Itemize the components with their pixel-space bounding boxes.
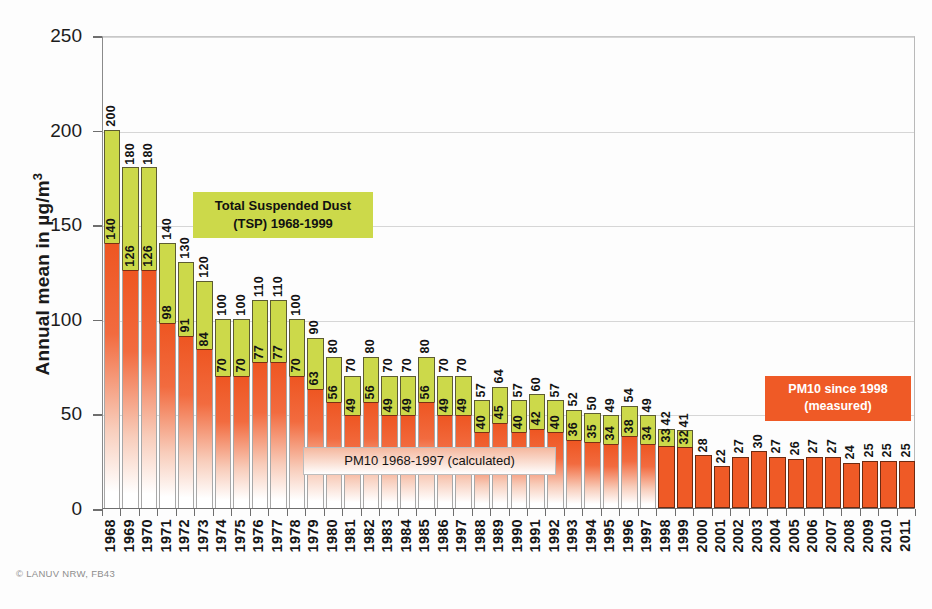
bar-pm10-measured[interactable] [825, 457, 841, 508]
bar-value-label-pm10: 34 [604, 426, 617, 441]
bar-slot: 6445 [491, 37, 509, 508]
x-tick-mark [176, 509, 177, 516]
x-tick-label-30: 1998 [658, 519, 673, 552]
bar-value-label-pm10: 40 [549, 415, 562, 430]
legend-tsp: Total Suspended Dust (TSP) 1968-1999 [193, 192, 373, 238]
bar-value-label-pm10: 32 [678, 430, 691, 445]
x-tick-label-6: 1974 [214, 519, 229, 552]
bar-value-label-pm10: 77 [253, 345, 266, 360]
bar-pm10-calculated[interactable] [233, 376, 249, 508]
x-tick-label-12: 1980 [325, 519, 340, 552]
y-tick-mark-0 [93, 509, 102, 511]
bar-pm10-calculated[interactable] [141, 270, 157, 508]
bar-pm10-calculated[interactable] [104, 243, 120, 508]
bar-pm10-measured[interactable] [899, 461, 915, 508]
bar-slot: 6042 [528, 37, 546, 508]
legend-tsp-line1: Total Suspended Dust [197, 197, 369, 215]
x-tick-label-9: 1977 [270, 519, 285, 552]
bar-pm10-measured[interactable] [806, 457, 822, 508]
bar-value-label-pm10: 25 [881, 443, 894, 458]
bar-pm10-measured[interactable] [769, 457, 785, 508]
x-tick-mark [545, 509, 546, 516]
y-tick-mark-150 [93, 225, 102, 227]
bar-pm10-calculated[interactable] [289, 376, 305, 508]
bar-slot: 8056 [362, 37, 380, 508]
bar-slot: 7049 [399, 37, 417, 508]
bar-slot: 10070 [214, 37, 232, 508]
x-tick-label-11: 1979 [306, 519, 321, 552]
bar-pm10-measured[interactable] [695, 455, 711, 508]
x-tick-mark [582, 509, 583, 516]
bar-pm10-measured[interactable] [714, 466, 730, 508]
bar-value-label-pm10: 35 [586, 424, 599, 439]
y-tick-label-100: 100 [22, 309, 82, 331]
bar-pm10-measured[interactable] [843, 463, 859, 508]
bar-pm10-measured[interactable] [658, 446, 674, 508]
bar-pm10-measured[interactable] [751, 451, 767, 508]
bar-value-label-pm10: 36 [567, 422, 580, 437]
bar-pm10-calculated[interactable] [215, 376, 231, 508]
x-tick-label-40: 2008 [842, 519, 857, 552]
bar-pm10-calculated[interactable] [603, 444, 619, 508]
bar-pm10-measured[interactable] [677, 447, 693, 508]
bar-pm10-calculated[interactable] [621, 436, 637, 508]
bar-pm10-measured[interactable] [788, 459, 804, 508]
bar-value-label-pm10: 98 [161, 305, 174, 320]
bar-slot: 5740 [546, 37, 564, 508]
bar-value-label-tsp: 49 [604, 398, 617, 413]
y-tick-label-200: 200 [22, 120, 82, 142]
bar-pm10-measured[interactable] [732, 457, 748, 508]
bar-pm10-calculated[interactable] [122, 270, 138, 508]
bar-pm10-calculated[interactable] [640, 444, 656, 508]
x-tick-label-24: 1992 [547, 519, 562, 552]
x-tick-mark [878, 509, 879, 516]
bar-pm10-measured[interactable] [880, 461, 896, 508]
bar-slot: 7049 [436, 37, 454, 508]
x-tick-label-41: 2009 [861, 519, 876, 552]
x-tick-label-28: 1996 [621, 519, 636, 552]
bar-value-label-pm10: 91 [179, 318, 192, 333]
x-tick-label-15: 1983 [380, 519, 395, 552]
x-tick-label-32: 2000 [695, 519, 710, 552]
bar-slot: 26 [787, 37, 805, 508]
bar-pm10-calculated[interactable] [178, 336, 194, 508]
bar-value-label-tsp: 110 [253, 276, 266, 297]
bar-slot: 8056 [325, 37, 343, 508]
x-tick-label-13: 1981 [343, 519, 358, 552]
legend-tsp-line2: (TSP) 1968-1999 [197, 215, 369, 233]
bar-value-label-pm10: 70 [290, 358, 303, 373]
bar-slot: 5035 [583, 37, 601, 508]
bar-slot: 24 [842, 37, 860, 508]
bar-value-label-pm10: 45 [493, 405, 506, 420]
bar-value-label-pm10: 34 [641, 426, 654, 441]
bar-slot: 180126 [140, 37, 158, 508]
bar-pm10-calculated[interactable] [584, 442, 600, 508]
x-tick-label-36: 2004 [768, 519, 783, 552]
bar-pm10-calculated[interactable] [196, 349, 212, 508]
x-tick-label-4: 1972 [177, 519, 192, 552]
bar-pm10-calculated[interactable] [159, 323, 175, 508]
bar-pm10-measured[interactable] [862, 461, 878, 508]
bar-value-label-pm10: 56 [364, 385, 377, 400]
bar-value-label-pm10: 27 [770, 439, 783, 454]
bar-pm10-calculated[interactable] [252, 362, 268, 508]
x-tick-label-37: 2005 [787, 519, 802, 552]
x-tick-label-35: 2003 [750, 519, 765, 552]
bar-slot: 8056 [417, 37, 435, 508]
bar-value-label-pm10: 25 [863, 443, 876, 458]
x-tick-label-16: 1984 [399, 519, 414, 552]
y-axis-title-exponent: 3 [30, 173, 45, 180]
x-tick-label-21: 1989 [491, 519, 506, 552]
bar-value-label-tsp: 42 [660, 411, 673, 426]
bar-pm10-calculated[interactable] [270, 362, 286, 508]
legend-pm10-calculated-line1: PM10 1968-1997 (calculated) [308, 452, 551, 470]
bar-value-label-tsp: 80 [419, 339, 432, 354]
bar-slot: 4934 [639, 37, 657, 508]
x-tick-label-3: 1971 [159, 519, 174, 552]
bar-slot: 5740 [510, 37, 528, 508]
bar-value-label-pm10: 30 [752, 434, 765, 449]
bar-slot: 13091 [177, 37, 195, 508]
bar-value-label-pm10: 56 [419, 385, 432, 400]
bar-pm10-calculated[interactable] [566, 440, 582, 508]
bar-value-label-tsp: 60 [530, 377, 543, 392]
